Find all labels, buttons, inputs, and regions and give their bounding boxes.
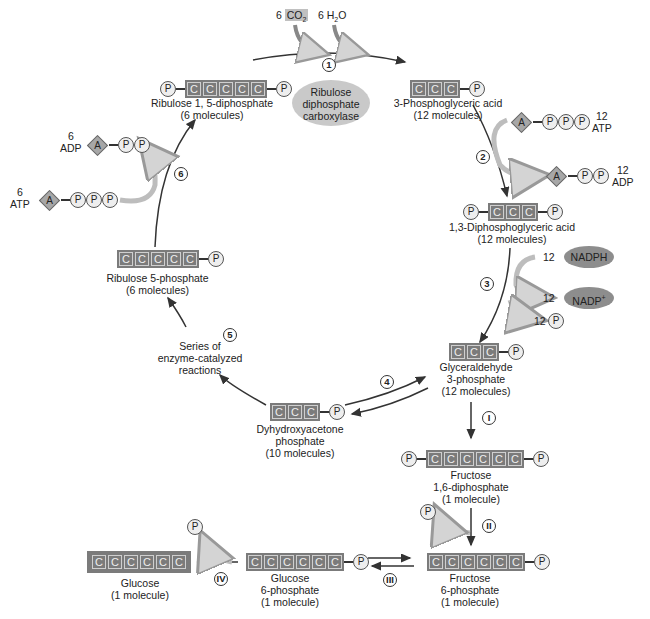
carbon: C: [124, 555, 138, 569]
adenosine-letter: A: [43, 194, 56, 207]
step-4-marker: 4: [380, 375, 394, 389]
arrow-h2o-in: [334, 25, 357, 52]
phosphate-icon: P: [469, 81, 485, 97]
carbon-chain-6: CCCCCC: [427, 553, 525, 571]
adenosine-icon: A: [39, 189, 60, 210]
g3p-count: (12 molecules): [431, 385, 521, 397]
carbon: C: [167, 252, 181, 266]
carbon: C: [272, 405, 286, 419]
carbon-chain-5: CCCCC: [185, 80, 267, 98]
carbon-chain-6: CCCCCC: [246, 553, 344, 571]
carbon-chain-5: CCCCC: [117, 250, 199, 268]
phosphate-icon: P: [574, 114, 590, 130]
carbon: C: [412, 82, 426, 96]
carbon: C: [522, 205, 536, 219]
step-III-marker: III: [383, 573, 397, 587]
bond: [524, 458, 533, 460]
bond: [479, 211, 488, 213]
label-pga: 3-Phosphoglyceric acid (12 molecules): [393, 97, 503, 121]
adp-6-icon: A PP: [86, 136, 150, 154]
carbon-chain-3: CCC: [449, 343, 499, 361]
arrow-pi-release-g6p: [206, 544, 232, 562]
co2-text: CO: [287, 9, 303, 21]
phosphate-icon: P: [160, 81, 176, 97]
glucose-name: Glucose: [100, 577, 180, 589]
arrow-to-ru5p: [168, 298, 186, 327]
co2-input: 6 CO2: [276, 9, 308, 26]
carbon: C: [280, 555, 294, 569]
f16dp-name1: Fructose: [421, 469, 521, 481]
molecule-dhap-chain: CCC P: [270, 403, 345, 421]
bond: [344, 561, 353, 563]
dhap-count: (10 molecules): [250, 447, 350, 459]
carbon: C: [92, 555, 106, 569]
carbon-chain-3: CCC: [410, 80, 460, 98]
label-ru5p: Ribulose 5-phosphate (6 molecules): [100, 272, 215, 296]
arrow-co2-in: [295, 25, 318, 52]
arrow-step3: [480, 248, 510, 342]
carbon-chain-6: CCCCCC: [426, 450, 524, 468]
step-2-marker: 2: [476, 150, 490, 164]
carbon: C: [264, 555, 278, 569]
carbon: C: [428, 82, 442, 96]
label-atp-6: 6 ATP: [10, 186, 30, 210]
molecule-ru5p-chain: CCCCC P: [117, 250, 224, 268]
arrow-pi: [510, 300, 532, 318]
adp12-count: 12: [612, 164, 634, 176]
dhap-name2: phosphate: [250, 435, 350, 447]
phosphate-icon: P: [118, 137, 134, 153]
g6p-name1: Glucose: [245, 572, 335, 584]
arrow-step6: [155, 120, 195, 247]
molecule-glucose-chain: CCCCCC: [87, 550, 191, 574]
carbon: C: [460, 452, 474, 466]
step-I-marker: I: [482, 411, 496, 425]
label-adp-6: 6 ADP: [60, 130, 82, 154]
arrow-atp-adp-6: [120, 150, 155, 201]
carbon: C: [493, 555, 507, 569]
carbon: C: [492, 452, 506, 466]
pga-name: 3-Phosphoglyceric acid: [393, 97, 503, 109]
step-6-marker: 6: [174, 167, 188, 181]
nadp-label: NADP: [572, 295, 601, 307]
phosphate-icon: P: [558, 114, 574, 130]
carbon: C: [187, 82, 201, 96]
dpga-name: 1,3-Diphosphoglyceric acid: [448, 221, 576, 233]
bond: [320, 411, 329, 413]
label-series-reactions: Series of enzyme-catalyzed reactions: [150, 340, 250, 376]
pga-count: (12 molecules): [393, 109, 503, 121]
h2o-o: O: [338, 9, 346, 21]
adenosine-icon: A: [546, 165, 567, 186]
atp12-count: 12: [592, 110, 612, 122]
label-rudp: Ribulose 1, 5-diphosphate (6 molecules): [147, 97, 277, 121]
f16dp-count: (1 molecule): [421, 493, 521, 505]
carbon: C: [235, 82, 249, 96]
carbon-chain-3: CCC: [488, 203, 538, 221]
phosphate-icon: P: [86, 192, 102, 208]
carbon: C: [477, 555, 491, 569]
series-line2: enzyme-catalyzed: [150, 352, 250, 364]
carbon-chain-3: CCC: [270, 403, 320, 421]
step-5-marker: 5: [223, 328, 237, 342]
bond: [499, 351, 508, 353]
carbon: C: [248, 555, 262, 569]
nadp-sup: +: [602, 294, 606, 301]
series-line1: Series of: [150, 340, 250, 352]
carbon: C: [476, 452, 490, 466]
rudp-count: (6 molecules): [147, 109, 277, 121]
carbon: C: [140, 555, 154, 569]
step-IV-marker: IV: [214, 572, 228, 586]
ru5p-count: (6 molecules): [100, 284, 215, 296]
carbon: C: [251, 82, 265, 96]
g3p-name2: 3-phosphate: [431, 373, 521, 385]
molecule-g6p-chain: CCCCCC P: [246, 553, 369, 571]
dpga-count: (12 molecules): [448, 233, 576, 245]
phosphate-icon: P: [542, 114, 558, 130]
co2-sub: 2: [303, 16, 307, 23]
label-dpga: 1,3-Diphosphoglyceric acid (12 molecules…: [448, 221, 576, 245]
arrow-step5: [220, 375, 266, 405]
carbon: C: [183, 252, 197, 266]
adp6-count: 6: [60, 130, 82, 142]
f16dp-name2: 1,6-diphosphate: [421, 481, 521, 493]
atp-12-icon: A PPP: [510, 113, 590, 131]
bond: [61, 199, 70, 201]
